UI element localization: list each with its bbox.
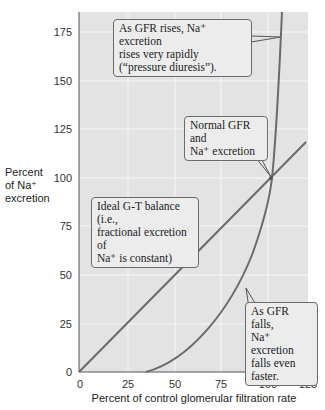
svg-text:100: 100 [54, 172, 72, 184]
svg-text:50: 50 [60, 269, 72, 281]
annotation-ideal-balance: Ideal G-T balance (i.e., fractional excr… [91, 197, 199, 268]
svg-text:25: 25 [122, 378, 134, 390]
annotation-line: falls even [251, 357, 312, 370]
annotation-line: Na⁺ excretion [251, 331, 312, 357]
y-axis-title-line: of Na⁺ [5, 179, 50, 192]
y-axis-title: Percent of Na⁺ excretion [5, 166, 50, 205]
svg-text:50: 50 [169, 378, 181, 390]
annotation-line: Normal GFR and [190, 119, 262, 145]
svg-text:25: 25 [60, 318, 72, 330]
annotation-line: fractional excretion of [97, 226, 193, 252]
annotation-line: rises very rapidly [119, 48, 246, 61]
annotation-line: Na⁺ is constant) [97, 252, 193, 265]
annotation-line: (“pressure diuresis”). [119, 61, 246, 74]
annotation-line: Na⁺ excretion [190, 145, 262, 158]
svg-text:150: 150 [54, 75, 72, 87]
annotation-gfr-falls: As GFR falls, Na⁺ excretion falls even f… [245, 302, 318, 386]
annotation-normal-gfr: Normal GFR and Na⁺ excretion [184, 116, 268, 161]
svg-text:125: 125 [54, 123, 72, 135]
x-axis-title: Percent of control glomerular filtration… [92, 392, 297, 404]
svg-text:75: 75 [215, 378, 227, 390]
y-axis-title-line: excretion [5, 192, 50, 205]
svg-text:0: 0 [77, 378, 83, 390]
annotation-line: As GFR falls, [251, 305, 312, 331]
svg-text:75: 75 [60, 220, 72, 232]
svg-text:0: 0 [66, 366, 72, 378]
normal-point-marker [269, 176, 273, 180]
annotation-line: Ideal G-T balance (i.e., [97, 200, 193, 226]
svg-text:175: 175 [54, 26, 72, 38]
y-axis-title-line: Percent [5, 166, 50, 179]
annotation-pressure-diuresis: As GFR rises, Na⁺ excretion rises very r… [113, 19, 252, 77]
y-tick-labels: 0 25 50 75 100 125 150 175 [54, 26, 72, 378]
annotation-line: As GFR rises, Na⁺ excretion [119, 22, 246, 48]
annotation-line: faster. [251, 370, 312, 383]
